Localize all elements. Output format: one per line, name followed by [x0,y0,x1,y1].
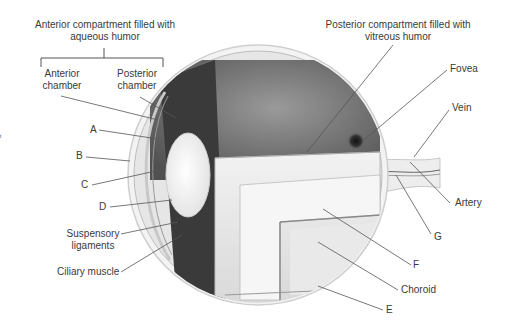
label-suspensory-line2: ligaments [66,240,120,252]
anterior-compartment-bracket [41,48,163,67]
label-anterior-compartment-line2: aqueous humor [10,31,200,43]
label-f: F [413,259,419,271]
label-anterior-chamber-line1: Anterior [40,68,84,80]
label-d: D [99,201,106,213]
label-anterior-chamber: Anterior chamber [40,68,84,92]
label-e: E [386,304,393,316]
label-posterior-compartment-line1: Posterior compartment filled with [318,19,478,31]
label-posterior-compartment: Posterior compartment filled with vitreo… [318,19,478,43]
label-anterior-compartment-line1: Anterior compartment filled with [10,19,200,31]
label-suspensory-line1: Suspensory [66,228,120,240]
label-vein: Vein [452,102,471,114]
lens [166,133,210,217]
label-a: A [90,124,97,136]
copyright-notice: © Jones & Bartlett Learning. [0,132,1,232]
fovea-spot [347,132,365,150]
label-c: C [81,179,88,191]
label-posterior-chamber-line1: Posterior [113,68,161,80]
label-g: G [434,231,442,243]
label-artery: Artery [455,197,482,209]
label-choroid: Choroid [401,284,436,296]
label-posterior-compartment-line2: vitreous humor [318,31,478,43]
label-anterior-compartment: Anterior compartment filled with aqueous… [10,19,200,43]
label-b: B [76,150,83,162]
label-posterior-chamber: Posterior chamber [113,68,161,92]
label-suspensory-ligaments: Suspensory ligaments [66,228,120,252]
label-ciliary-muscle: Ciliary muscle [57,266,119,278]
label-anterior-chamber-line2: chamber [40,80,84,92]
label-fovea: Fovea [450,63,478,75]
label-posterior-chamber-line2: chamber [113,80,161,92]
